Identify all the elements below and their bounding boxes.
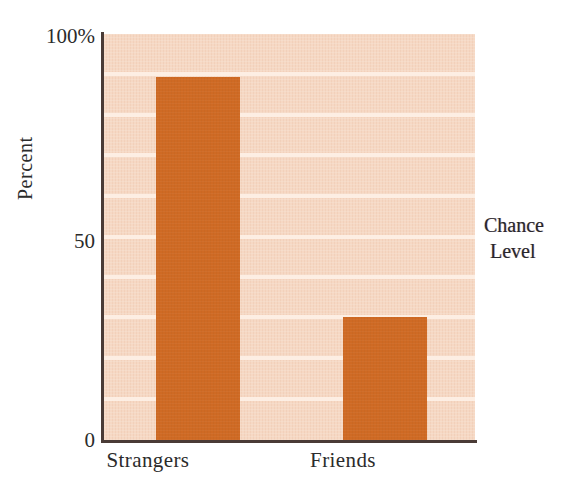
bar-friends bbox=[343, 317, 427, 440]
y-tick-label-50: 50 bbox=[74, 231, 95, 252]
y-tick-label-100: 100% bbox=[46, 26, 95, 47]
chance-level-annotation: Chance Level bbox=[484, 213, 544, 264]
gridline-90 bbox=[103, 72, 475, 76]
chance-level-line-1: Chance bbox=[484, 213, 544, 239]
bar-chart-figure: 100% 50 0 Percent Strangers Friends Chan… bbox=[0, 0, 573, 486]
y-tick-label-0: 0 bbox=[85, 430, 96, 451]
bar-strangers bbox=[156, 77, 240, 440]
y-axis-title: Percent bbox=[14, 137, 37, 200]
x-category-label-strangers: Strangers bbox=[98, 448, 198, 473]
y-axis-line bbox=[101, 32, 104, 442]
x-category-label-friends: Friends bbox=[293, 448, 393, 473]
chance-level-line-2: Level bbox=[484, 239, 544, 265]
x-axis-line bbox=[101, 440, 477, 443]
plot-area bbox=[103, 34, 475, 440]
